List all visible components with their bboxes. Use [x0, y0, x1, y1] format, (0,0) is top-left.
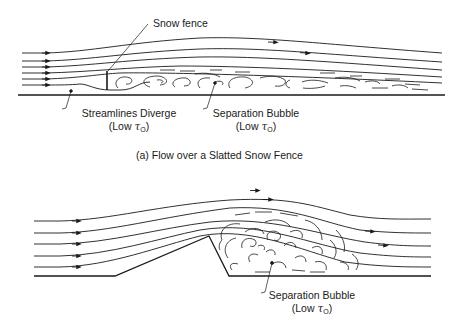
separation-bubble-a-dot: [214, 82, 217, 85]
snow-fence-label: Snow fence: [153, 18, 208, 29]
separation-bubble-a-leader: [203, 83, 215, 109]
separation-bubble-b-dot: [271, 262, 274, 265]
streamlines-diverge-dot: [70, 90, 73, 93]
streamlines-diverge-shear: (Low τO): [74, 121, 184, 133]
streamline-b-5: [34, 234, 431, 267]
streamline-b-1: [34, 199, 431, 221]
snow-fence-leader: [108, 24, 148, 71]
flow-diagram: [0, 0, 459, 333]
figure-b-ridge: [34, 191, 431, 294]
separation-bubble-a-shear: (Low τO): [210, 121, 302, 133]
low-prefix: (Low: [236, 120, 262, 132]
close-paren: ): [146, 120, 150, 132]
streamlines-diverge-title: Streamlines Diverge: [74, 108, 184, 119]
streamline-b-2: [34, 208, 431, 233]
close-paren: ): [273, 120, 277, 132]
ground-ridge-b: [34, 236, 431, 276]
separation-bubble-b-title: Separation Bubble: [266, 290, 358, 301]
streamlines-diverge-leader: [62, 91, 71, 109]
close-paren: ): [329, 302, 333, 314]
streamline-b-4: [34, 228, 431, 257]
streamline-a-2: [22, 49, 442, 62]
streamline-a-1: [22, 38, 442, 53]
streamlines-diverge-label: Streamlines Diverge (Low τO): [74, 108, 184, 133]
separation-bubble-b-label: Separation Bubble (Low τO): [266, 290, 358, 315]
separation-bubble-a-title: Separation Bubble: [210, 108, 302, 119]
low-prefix: (Low: [292, 302, 318, 314]
separation-bubble-a-label: Separation Bubble (Low τO): [210, 108, 302, 133]
flow-arrows-b: [72, 191, 386, 268]
low-prefix: (Low: [109, 120, 135, 132]
figure-a-caption: (a) Flow over a Slatted Snow Fence: [136, 150, 303, 161]
flow-arrows-a: [42, 42, 308, 85]
streamline-a-4: [22, 66, 442, 77]
streamline-a-5: [22, 73, 442, 83]
separation-bubble-b-shear: (Low τO): [266, 303, 358, 315]
figure-a-snow-fence: [18, 24, 445, 109]
